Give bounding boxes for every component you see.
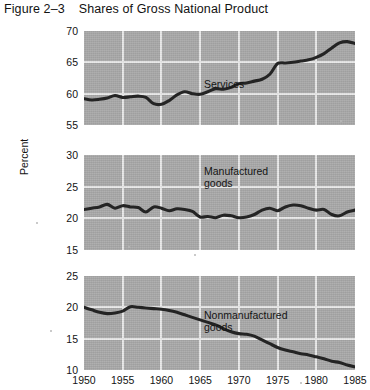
series-label-services: Services <box>204 79 244 91</box>
x-tick-label: 1975 <box>258 374 298 386</box>
figure-root: Figure 2–3 Shares of Gross National Prod… <box>0 0 370 390</box>
scan-speck <box>340 120 342 122</box>
x-tick-label: 1955 <box>103 374 143 386</box>
y-tick-label: 65 <box>48 56 78 68</box>
y-axis-label: Percent <box>18 139 30 175</box>
figure-number: Figure 2–3 <box>4 2 65 16</box>
series-label-nonmanufactured-goods: Nonmanufactured goods <box>204 310 287 333</box>
scan-speck <box>194 254 196 256</box>
x-tick-label: 1950 <box>64 374 104 386</box>
y-tick-label: 15 <box>48 244 78 256</box>
y-tick-label: 60 <box>48 88 78 100</box>
series-label-manufactured-goods: Manufactured goods <box>204 166 268 189</box>
y-tick-label: 15 <box>48 333 78 345</box>
y-tick-label: 20 <box>48 212 78 224</box>
scan-speck <box>36 222 38 224</box>
figure-title: Shares of Gross National Product <box>79 2 268 16</box>
scan-speck <box>50 330 52 332</box>
y-tick-label: 25 <box>48 270 78 282</box>
y-tick-label: 30 <box>48 149 78 161</box>
x-tick-label: 1970 <box>219 374 259 386</box>
y-tick-label: 20 <box>48 301 78 313</box>
x-tick-label: 1985 <box>335 374 370 386</box>
y-tick-label: 55 <box>48 119 78 131</box>
y-tick-label: 70 <box>48 25 78 37</box>
x-tick-label: 1965 <box>180 374 220 386</box>
x-tick-label: 1960 <box>141 374 181 386</box>
scan-speck <box>128 246 130 248</box>
x-tick-label: 1980 <box>296 374 336 386</box>
y-tick-label: 25 <box>48 181 78 193</box>
figure-title-bar: Figure 2–3 Shares of Gross National Prod… <box>4 2 268 16</box>
scan-speck <box>300 382 302 384</box>
